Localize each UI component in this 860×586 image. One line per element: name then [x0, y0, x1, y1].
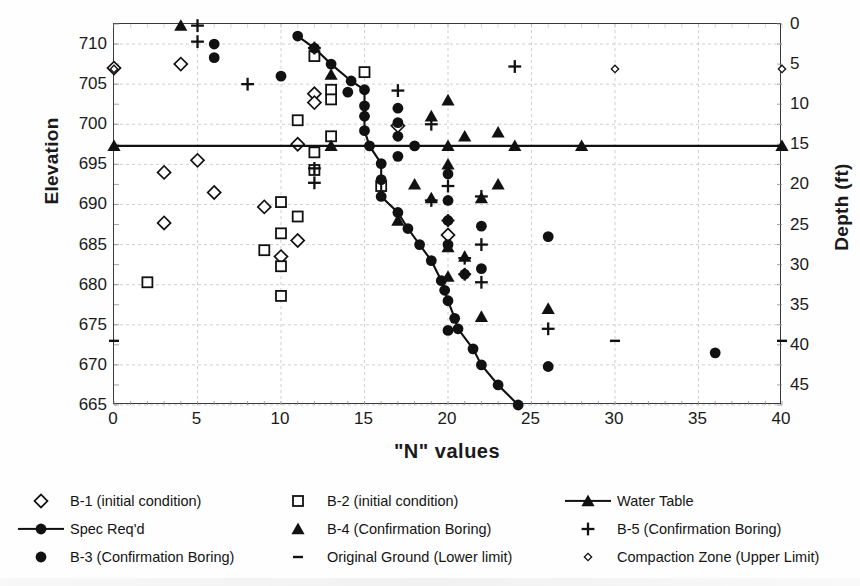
legend-item[interactable]: Water Table [565, 492, 694, 510]
y2-tick-25: 25 [790, 216, 809, 233]
legend-item[interactable]: Original Ground (Lower limit) [275, 548, 512, 566]
filled-triangle-icon [565, 492, 611, 510]
legend-label: Spec Req'd [70, 521, 145, 537]
filled-circle-icon [18, 548, 64, 566]
filled-triangle-icon [275, 520, 321, 538]
data-series-layer [114, 24, 782, 405]
y-tick-705: 705 [79, 75, 107, 92]
legend-label: B-3 (Confirmation Boring) [70, 549, 234, 565]
legend-marker-glyph [18, 548, 64, 566]
y-tick-670: 670 [79, 356, 107, 373]
filled-circle-icon [18, 520, 64, 538]
y2-axis-title: Depth (ft) [831, 137, 853, 277]
legend-label: B-5 (Confirmation Boring) [617, 521, 781, 537]
legend-marker-glyph [565, 548, 611, 566]
legend-item[interactable]: Spec Req'd [18, 520, 145, 538]
legend-label: B-1 (initial condition) [70, 493, 201, 509]
legend-label: B-4 (Confirmation Boring) [327, 521, 491, 537]
scan-artifact-strip [0, 578, 860, 586]
x-tick-35: 35 [688, 410, 707, 427]
series-4 [174, 19, 555, 322]
y2-tick-0: 0 [790, 15, 799, 32]
legend-item[interactable]: B-2 (initial condition) [275, 492, 458, 510]
chart-page: Elevation Depth (ft) 7107057006956906856… [0, 0, 860, 586]
legend-label: Compaction Zone (Upper Limit) [617, 549, 819, 565]
legend-marker-glyph [275, 492, 321, 510]
legend-label: B-2 (initial condition) [327, 493, 458, 509]
tiny-diamond-icon [565, 548, 611, 566]
open-diamond-icon [18, 492, 64, 510]
legend-label: Original Ground (Lower limit) [327, 549, 512, 565]
legend-item[interactable]: B-1 (initial condition) [18, 492, 201, 510]
x-tick-5: 5 [192, 410, 201, 427]
series-5 [191, 19, 554, 335]
legend-label: Water Table [617, 493, 694, 509]
legend-item[interactable]: B-3 (Confirmation Boring) [18, 548, 234, 566]
y-axis-tick-labels: 710705700695690685680675670665 [52, 0, 107, 470]
y2-tick-45: 45 [790, 376, 809, 393]
y-tick-675: 675 [79, 316, 107, 333]
y2-tick-40: 40 [790, 336, 809, 353]
legend-marker-glyph [18, 492, 64, 510]
y-tick-685: 685 [79, 236, 107, 253]
plus-icon [565, 520, 611, 538]
x-tick-30: 30 [605, 410, 624, 427]
open-square-icon [275, 492, 321, 510]
legend-marker-glyph [275, 548, 321, 566]
x-tick-10: 10 [271, 410, 290, 427]
y-tick-700: 700 [79, 115, 107, 132]
legend-item[interactable]: B-4 (Confirmation Boring) [275, 520, 491, 538]
y2-axis-tick-labels: 051015202530354045 [790, 0, 830, 470]
dash-icon [275, 548, 321, 566]
y2-tick-15: 15 [790, 135, 809, 152]
series-6 [107, 140, 788, 152]
y2-tick-35: 35 [790, 296, 809, 313]
series-8 [110, 65, 785, 72]
y-tick-680: 680 [79, 276, 107, 293]
x-tick-25: 25 [521, 410, 540, 427]
plot-container: Elevation Depth (ft) 7107057006956906856… [0, 0, 860, 470]
y-tick-690: 690 [79, 195, 107, 212]
y-tick-695: 695 [79, 155, 107, 172]
y2-tick-5: 5 [790, 55, 799, 72]
x-tick-15: 15 [354, 410, 373, 427]
legend-marker-glyph [18, 520, 64, 538]
legend-marker-glyph [565, 492, 611, 510]
x-tick-40: 40 [772, 410, 791, 427]
y2-tick-30: 30 [790, 256, 809, 273]
x-tick-0: 0 [108, 410, 117, 427]
y2-tick-20: 20 [790, 175, 809, 192]
legend-marker-glyph [275, 520, 321, 538]
legend-marker-glyph [565, 520, 611, 538]
legend-item[interactable]: B-5 (Confirmation Boring) [565, 520, 781, 538]
y2-tick-10: 10 [790, 95, 809, 112]
chart-legend: B-1 (initial condition)B-2 (initial cond… [0, 490, 860, 582]
x-axis-title: "N" values [113, 440, 781, 463]
legend-item[interactable]: Compaction Zone (Upper Limit) [565, 548, 819, 566]
x-tick-20: 20 [438, 410, 457, 427]
x-axis-tick-labels: 0510152025303540 [0, 410, 860, 440]
y-tick-710: 710 [79, 35, 107, 52]
plot-area [113, 23, 781, 404]
